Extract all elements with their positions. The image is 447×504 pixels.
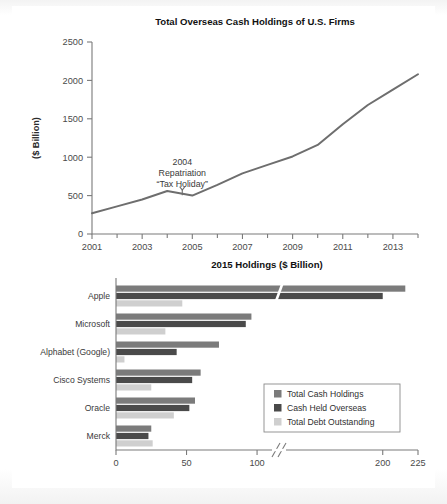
line-chart-ytick-label: 2500	[63, 37, 83, 47]
bar-chart-category-label: Merck	[87, 431, 111, 441]
line-chart-xtick-label: 2003	[132, 242, 152, 252]
line-chart-ytick-label: 1000	[63, 153, 83, 163]
bar-chart-xtick-label: 50	[181, 458, 191, 468]
bar-chart-category-label: Cisco Systems	[53, 375, 110, 385]
bar-chart-bar	[116, 440, 153, 446]
bar-chart-bar	[116, 412, 174, 418]
legend-swatch	[274, 418, 282, 426]
line-chart-ytick-label: 0	[78, 229, 83, 239]
bar-chart-bar	[116, 384, 151, 390]
bar-chart-bar	[116, 314, 251, 320]
line-chart-ylabel: ($ Billion)	[31, 117, 41, 159]
line-chart-annotation-line: 2004	[172, 157, 192, 167]
line-chart-series	[92, 74, 418, 213]
bar-chart-bar	[116, 370, 201, 376]
bar-chart-bar	[116, 349, 177, 355]
figure-sheet: Total Overseas Cash Holdings of U.S. Fir…	[12, 6, 435, 488]
line-chart-annotation-line: Repatriation	[159, 168, 207, 178]
line-chart-figure: Total Overseas Cash Holdings of U.S. Fir…	[12, 6, 435, 262]
bar-chart-bar	[116, 342, 219, 348]
bar-chart-bar	[116, 426, 151, 432]
bar-chart-xtick-label: 100	[249, 458, 264, 468]
bar-chart-bar	[116, 356, 124, 362]
line-chart-ytick-label: 2000	[63, 76, 83, 86]
bar-chart-bar	[116, 300, 182, 306]
bar-chart-xtick-label: 200	[375, 458, 390, 468]
line-chart-ytick-label: 500	[68, 191, 83, 201]
bar-chart-bar	[116, 286, 405, 292]
bar-chart-category-label: Apple	[88, 291, 110, 301]
bar-chart-category-label: Alphabet (Google)	[40, 347, 110, 357]
line-chart-axes	[92, 42, 418, 234]
legend-swatch	[274, 390, 282, 398]
line-chart-title: Total Overseas Cash Holdings of U.S. Fir…	[155, 16, 355, 27]
bar-chart-figure: 2015 Holdings ($ Billion)AppleMicrosoftA…	[12, 254, 435, 488]
screenshot-page: Total Overseas Cash Holdings of U.S. Fir…	[0, 0, 447, 504]
legend-label: Cash Held Overseas	[287, 403, 366, 413]
line-chart-xtick-label: 2005	[182, 242, 202, 252]
line-chart-xtick-label: 2013	[383, 242, 403, 252]
legend-label: Total Cash Holdings	[287, 389, 363, 399]
bar-chart-bar	[116, 328, 165, 334]
bar-chart-bar	[116, 321, 246, 327]
line-chart-annotation-line: “Tax Holiday”	[157, 179, 208, 189]
bar-chart-category-label: Oracle	[85, 403, 111, 413]
bar-chart-title: 2015 Holdings ($ Billion)	[211, 259, 322, 270]
line-chart-xtick-label: 2009	[282, 242, 302, 252]
bar-chart-svg: 2015 Holdings ($ Billion)AppleMicrosoftA…	[12, 254, 435, 488]
bar-chart-bar	[116, 405, 189, 411]
bar-chart-bar	[116, 398, 195, 404]
legend-swatch	[274, 404, 282, 412]
bar-chart-category-label: Microsoft	[75, 319, 110, 329]
bar-chart-xtick-label: 225	[410, 458, 425, 468]
bar-chart-bar	[116, 377, 192, 383]
line-chart-xtick-label: 2001	[82, 242, 102, 252]
line-chart-xtick-label: 2011	[333, 242, 353, 252]
legend-label: Total Debt Outstanding	[287, 417, 375, 427]
line-chart-xtick-label: 2007	[232, 242, 252, 252]
bar-chart-bar	[116, 433, 148, 439]
line-chart-ytick-label: 1500	[63, 114, 83, 124]
line-chart-svg: Total Overseas Cash Holdings of U.S. Fir…	[12, 6, 435, 262]
bar-chart-bar	[116, 293, 383, 299]
bar-chart-xtick-label: 0	[113, 458, 118, 468]
